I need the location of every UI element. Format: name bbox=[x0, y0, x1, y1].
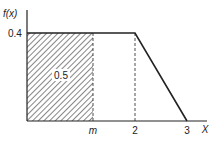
x-tick-m: m bbox=[89, 125, 97, 136]
y-axis-label: f(x) bbox=[3, 8, 17, 19]
x-tick-2: 2 bbox=[132, 125, 138, 136]
y-tick-label: 0.4 bbox=[8, 28, 22, 39]
area-label: 0.5 bbox=[54, 70, 68, 81]
x-axis-label: X bbox=[201, 124, 209, 135]
x-tick-3: 3 bbox=[184, 125, 190, 136]
pdf-diagram: 0.5 f(x) 0.4 m 2 3 X bbox=[0, 0, 222, 143]
